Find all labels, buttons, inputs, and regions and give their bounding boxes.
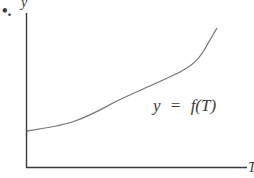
function-curve <box>27 28 217 131</box>
curve-label-rhs: f(T) <box>191 96 217 115</box>
function-plot: •. y T y = f(T) <box>0 0 254 178</box>
curve-label-lhs: y <box>151 96 161 115</box>
curve-label-eq: = <box>171 96 181 115</box>
x-axis-label: T <box>248 160 254 175</box>
curve-label: y = f(T) <box>151 96 216 115</box>
item-marker: •. <box>2 2 12 19</box>
y-axis-label: y <box>19 0 28 10</box>
